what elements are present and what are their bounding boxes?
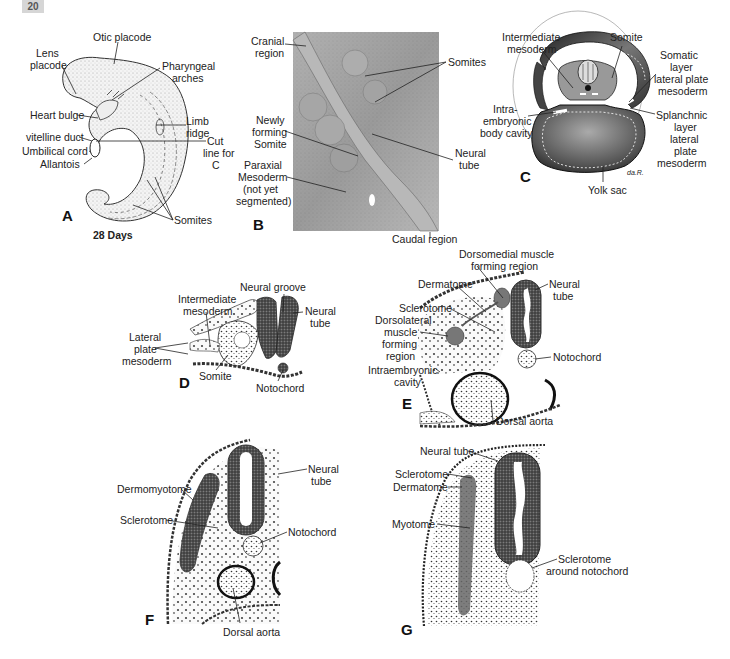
label-newly-forming-2: forming <box>252 126 287 138</box>
label-neural-tube-e-1: Neural <box>549 278 580 290</box>
panel-letter-b: B <box>253 216 264 233</box>
label-splanchnic-layer-2: layer <box>674 121 697 133</box>
label-splanchnic-layer-4: plate <box>674 145 697 157</box>
label-somatic-layer-1: Somatic <box>660 49 698 61</box>
label-intra-embryonic-1: Intra- <box>493 103 518 115</box>
label-vitelline-duct: vitelline duct <box>26 131 84 143</box>
label-intermediate-mesoderm-d-1: Intermediate <box>178 293 236 305</box>
label-lateral-plate-3: mesoderm <box>122 355 172 367</box>
label-neural-tube-b-2: tube <box>459 159 479 171</box>
panel-e-section <box>418 272 560 427</box>
label-paraxial-mesoderm-3: (not yet <box>243 183 278 195</box>
label-cut-line-1: Cut <box>207 135 223 147</box>
label-myotome: Myotome <box>392 518 435 530</box>
label-splanchnic-layer-3: lateral <box>670 133 699 145</box>
label-limb-ridge-1: Limb <box>186 115 209 127</box>
label-sclerotome-notochord-2: around notochord <box>546 565 628 577</box>
label-otic-placode: Otic placode <box>93 31 151 43</box>
label-somites-b: Somites <box>448 56 486 68</box>
label-intra-embryonic-2: embryonic <box>483 115 531 127</box>
label-lateral-plate-1: Lateral <box>129 331 161 343</box>
label-dorsolateral-3: forming <box>382 338 417 350</box>
label-heart-bulge: Heart bulge <box>30 109 84 121</box>
label-dorsolateral-2: muscle <box>384 326 417 338</box>
panel-letter-g: G <box>401 621 413 638</box>
panel-b-sem-photo <box>293 32 439 231</box>
label-neural-tube-f-2: tube <box>311 475 331 487</box>
label-dermatome-g: Dermatome <box>393 481 448 493</box>
label-yolk-sac: Yolk sac <box>588 184 627 196</box>
label-paraxial-mesoderm-2: Mesoderm <box>238 171 288 183</box>
panel-f-section <box>168 440 280 624</box>
label-neural-groove: Neural groove <box>240 281 306 293</box>
label-neural-tube-b-1: Neural <box>455 147 486 159</box>
label-somatic-layer-3: lateral plate <box>654 73 708 85</box>
label-dermatome-e: Dermatome <box>418 278 473 290</box>
label-limb-ridge-2: ridge <box>186 127 209 139</box>
label-umbilical-cord: Umbilical cord <box>22 145 88 157</box>
label-dorsal-aorta-e: Dorsal aorta <box>496 415 553 427</box>
label-neural-tube-f-1: Neural <box>308 463 339 475</box>
label-somites-a: Somites <box>174 214 212 226</box>
panel-letter-c: C <box>520 168 531 185</box>
label-notochord-e: Notochord <box>553 351 601 363</box>
label-lateral-plate-2: plate <box>134 343 157 355</box>
label-intermediate-mesoderm-d-2: mesoderm <box>183 305 233 317</box>
label-newly-forming-1: Newly <box>256 114 285 126</box>
label-neural-tube-d-1: Neural <box>305 305 336 317</box>
label-somite-c: Somite <box>610 31 643 43</box>
label-neural-tube-g: Neural tube <box>420 445 474 457</box>
label-lens-placode-2: placode <box>30 59 67 71</box>
panel-a-caption: 28 Days <box>93 229 133 241</box>
label-newly-forming-3: Somite <box>254 138 287 150</box>
label-sclerotome-notochord-1: Sclerotome <box>558 553 611 565</box>
figure-drawings <box>0 0 730 659</box>
artist-signature: da.R. <box>627 167 644 179</box>
panel-letter-d: D <box>179 374 190 391</box>
label-pharyngeal-arches-1: Pharyngeal <box>162 60 215 72</box>
label-caudal-region: Caudal region <box>392 233 457 245</box>
label-pharyngeal-arches-2: arches <box>172 72 204 84</box>
label-cranial-region-2: region <box>255 47 284 59</box>
label-intermediate-mesoderm-c-2: mesoderm <box>507 43 557 55</box>
label-lens-placode-1: Lens <box>36 47 59 59</box>
panel-letter-e: E <box>402 395 412 412</box>
label-intraembryonic-cavity-1: Intraembryonic <box>368 364 437 376</box>
label-cut-line-2: line for <box>203 147 235 159</box>
label-dorsal-aorta-f: Dorsal aorta <box>223 626 280 638</box>
label-dermomyotome: Dermomyotome <box>117 483 192 495</box>
label-splanchnic-layer-1: Splanchnic <box>656 109 707 121</box>
label-dorsomedial-2: forming region <box>471 260 538 272</box>
label-notochord-f: Notochord <box>288 526 336 538</box>
panel-letter-f: F <box>145 611 154 628</box>
label-cranial-region-1: Cranial <box>251 35 284 47</box>
label-allantois: Allantois <box>40 158 80 170</box>
label-sclerotome-e: Sclerotome <box>399 302 452 314</box>
label-intraembryonic-cavity-2: cavity <box>394 376 421 388</box>
label-paraxial-mesoderm-1: Paraxial <box>244 159 282 171</box>
label-paraxial-mesoderm-4: segmented) <box>236 195 291 207</box>
label-somite-d: Somite <box>199 370 232 382</box>
panel-letter-a: A <box>62 207 73 224</box>
label-dorsomedial-1: Dorsomedial muscle <box>459 248 554 260</box>
label-notochord-d: Notochord <box>256 382 304 394</box>
label-somatic-layer-4: mesoderm <box>658 85 708 97</box>
label-neural-tube-d-2: tube <box>310 317 330 329</box>
label-sclerotome-f: Sclerotome <box>120 514 173 526</box>
label-dorsolateral-4: region <box>386 350 415 362</box>
label-intra-embryonic-3: body cavity <box>480 127 533 139</box>
label-somatic-layer-2: layer <box>670 61 693 73</box>
label-cut-line-3: C <box>212 159 220 171</box>
label-intermediate-mesoderm-c-1: Intermediate <box>502 31 560 43</box>
label-dorsolateral-1: Dorsolateral <box>375 314 432 326</box>
label-neural-tube-e-2: tube <box>553 290 573 302</box>
label-sclerotome-g: Sclerotome <box>395 468 448 480</box>
label-splanchnic-layer-5: mesoderm <box>657 157 707 169</box>
